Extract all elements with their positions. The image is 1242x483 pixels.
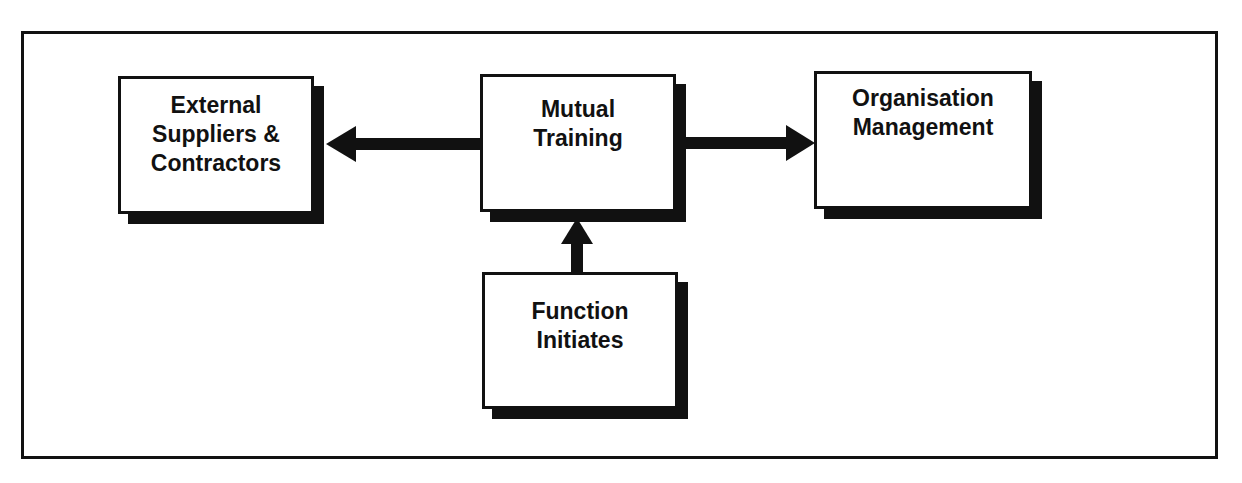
connector-arrows: [0, 0, 1242, 483]
node-label: Mutual Training: [483, 95, 673, 153]
node-label: Organisation Management: [817, 84, 1029, 142]
node-label: Function Initiates: [485, 297, 675, 355]
node-organisation-management: Organisation Management: [814, 71, 1032, 209]
node-external-suppliers: External Suppliers & Contractors: [118, 76, 314, 214]
node-label: External Suppliers & Contractors: [121, 91, 311, 178]
node-mutual-training: Mutual Training: [480, 74, 676, 212]
node-function-initiates: Function Initiates: [482, 272, 678, 409]
